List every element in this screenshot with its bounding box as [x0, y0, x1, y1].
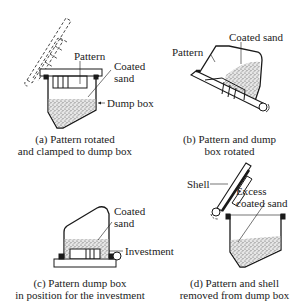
caption-c-line1: (c) Pattern dump box: [0, 277, 160, 290]
panel-a-drawing: [25, 18, 111, 128]
label-coated-sand-a-1: Coated: [114, 60, 145, 72]
label-pattern-a: Pattern: [74, 50, 105, 62]
label-investment: Investment: [125, 245, 174, 257]
label-coated-sand-c-2: sand: [114, 217, 134, 229]
caption-c-line2: in position for the investment: [0, 289, 160, 302]
label-coated-sand-a-2: sand: [114, 72, 134, 84]
panel-d-drawing: [210, 163, 285, 267]
label-coated-sand-c-1: Coated: [114, 205, 145, 217]
caption-a-line2: and clamped to dump box: [0, 145, 150, 158]
caption-b-line1: (b) Pattern and dump: [160, 133, 299, 146]
label-excess-2: coated sand: [236, 197, 288, 209]
label-coated-sand-b: Coated sand: [229, 31, 283, 43]
label-pattern-b: Pattern: [172, 46, 203, 58]
label-shell: Shell: [187, 178, 210, 190]
caption-b-line2: box rotated: [160, 145, 299, 158]
caption-d-line1: (d) Pattern and shell: [170, 277, 299, 290]
label-dump-box: Dump box: [107, 97, 154, 109]
panel-c-drawing: [54, 207, 123, 267]
label-excess-1: Excess: [236, 185, 267, 197]
caption-a-line1: (a) Pattern rotated: [0, 133, 150, 146]
caption-d-line2: removed from dump box: [170, 289, 299, 302]
